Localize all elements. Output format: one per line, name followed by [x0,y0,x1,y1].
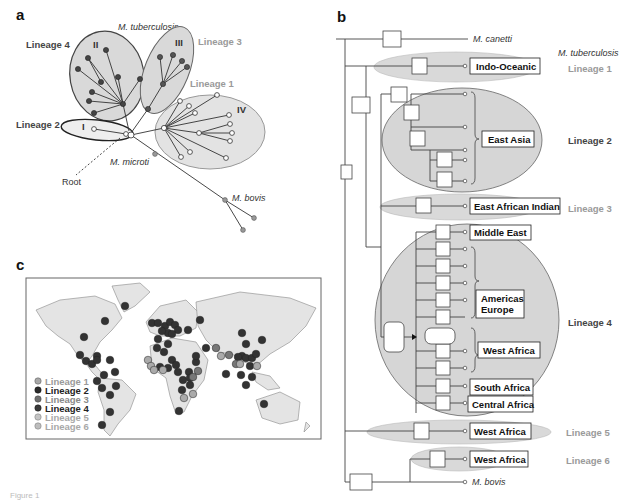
region-central-africa: Central Africa [472,399,535,410]
legend-swatch-icon [35,396,41,402]
lineage-1-label: Lineage 1 [568,63,613,74]
region-west-africa-l6: West Africa [474,454,526,465]
clade-ii-label: II [93,39,98,50]
bovis-label: M. bovis [232,193,266,203]
panel-c-label: c [16,256,24,273]
region-americas: Americas [481,293,524,304]
legend-swatch-icon [35,387,41,393]
lineage-6-label: Lineage 6 [566,455,610,466]
panel-a: a M. tuberculosis [16,6,266,232]
figure-caption: Figure 1 [10,491,40,500]
lineage-2-ellipse [60,116,134,143]
lineage-4-label: Lineage 4 [26,39,71,50]
panel-a-label: a [16,6,25,23]
legend-swatch-icon [35,378,41,384]
region-east-asia: East Asia [488,134,531,145]
region-west-africa-l4: West Africa [483,345,535,356]
legend-label: Lineage 6 [45,421,89,432]
clade-i-label: I [82,121,85,132]
lineage-1-label: Lineage 1 [190,78,235,89]
panel-c: c [16,256,321,439]
region-europe: Europe [481,304,514,315]
region-indo-oceanic: Indo-Oceanic [476,61,536,72]
microti-label: M. microti [110,157,150,167]
region-south-africa: South Africa [474,382,531,393]
panel-b-label: b [337,8,346,25]
panel-b-title: M. tuberculosis [558,48,619,58]
region-east-african-indian: East African Indian [474,201,560,212]
legend-swatch-icon [35,414,41,420]
region-west-africa-l5: West Africa [474,426,526,437]
bovis-label: M. bovis [472,477,506,487]
lineage-4-label: Lineage 4 [568,317,613,328]
lineage-2-label: Lineage 2 [16,119,60,130]
canetti-label: M. canetti [473,34,513,44]
region-middle-east: Middle East [474,227,528,238]
legend-swatch-icon [35,423,41,429]
root-label: Root [62,177,82,187]
lineage-2-label: Lineage 2 [568,135,612,146]
clade-iv-label: IV [237,104,247,115]
lineage-3-label: Lineage 3 [568,203,612,214]
clade-iii-label: III [175,37,183,48]
legend-swatch-icon [35,405,41,411]
lineage-5-label: Lineage 5 [566,427,611,438]
lineage-4-ellipse [63,25,152,126]
lineage-3-label: Lineage 3 [198,36,242,47]
panel-b: b [336,8,619,490]
